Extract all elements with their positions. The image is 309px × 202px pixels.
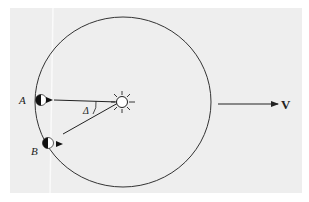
aberration-diagram: Δ A B V [0,0,309,202]
point-a-label: A [18,94,26,106]
velocity-label: V [281,97,291,112]
ray-b-to-sun [63,103,118,134]
point-b-label: B [31,145,38,157]
angle-arc [93,101,96,114]
planet-a-icon [36,95,54,106]
sun-icon [111,91,135,113]
planet-b-icon [43,138,64,149]
angle-label: Δ [82,105,89,116]
ray-a-to-sun [54,100,118,102]
